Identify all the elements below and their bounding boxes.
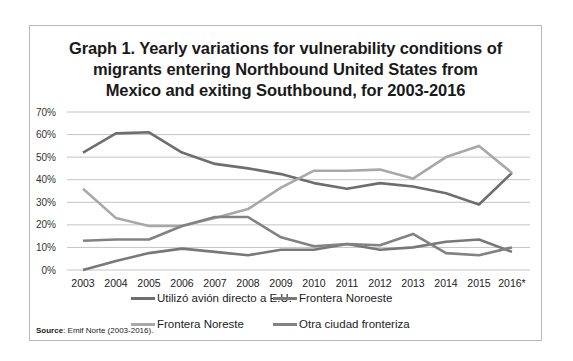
legend-swatch [131, 297, 155, 300]
line-chart: 0%10%20%30%40%50%60%70% 2003200420052006… [0, 0, 573, 361]
y-tick-label: 50% [36, 152, 56, 163]
legend-swatch [273, 297, 297, 300]
x-tick-label: 2015 [467, 277, 491, 289]
x-tick-label: 2008 [236, 277, 260, 289]
y-tick-label: 60% [36, 129, 56, 140]
y-tick-label: 10% [36, 242, 56, 253]
x-tick-label: 2003 [71, 277, 95, 289]
legend-label: Frontera Noroeste [299, 292, 392, 304]
x-tick-label: 2004 [104, 277, 128, 289]
x-tick-label: 2010 [302, 277, 326, 289]
source-note: Source: Emif Norte (2003-2016). [36, 326, 153, 335]
x-tick-label: 2016* [498, 277, 525, 289]
y-tick-label: 0% [42, 265, 57, 276]
x-axis-ticks: 2003200420052006200720082009201020112012… [71, 277, 525, 289]
x-tick-label: 2005 [137, 277, 161, 289]
legend-label: Otra ciudad fronteriza [299, 318, 410, 330]
series-line [83, 146, 512, 226]
series-lines [83, 132, 512, 270]
legend-item-avion: Utilizó avión directo a E.U. [131, 292, 292, 304]
y-tick-label: 20% [36, 219, 56, 230]
series-line [83, 240, 512, 271]
x-tick-label: 2012 [368, 277, 392, 289]
x-tick-label: 2014 [434, 277, 458, 289]
legend-label: Utilizó avión directo a E.U. [157, 292, 292, 304]
x-tick-label: 2007 [203, 277, 227, 289]
legend-item-otra-ciudad: Otra ciudad fronteriza [273, 318, 410, 330]
source-label: Source [36, 326, 63, 335]
y-tick-label: 30% [36, 197, 56, 208]
y-tick-label: 40% [36, 174, 56, 185]
legend-item-noroeste: Frontera Noroeste [273, 292, 392, 304]
source-text: : Emif Norte (2003-2016). [63, 326, 153, 335]
x-tick-label: 2006 [170, 277, 194, 289]
x-tick-label: 2013 [401, 277, 425, 289]
legend-swatch [273, 323, 297, 326]
y-axis-ticks: 0%10%20%30%40%50%60%70% [36, 107, 56, 276]
series-line [83, 132, 512, 204]
legend-label: Frontera Noreste [157, 318, 244, 330]
x-tick-label: 2009 [269, 277, 293, 289]
gridlines [67, 112, 530, 270]
y-tick-label: 70% [36, 107, 56, 118]
x-tick-label: 2011 [336, 277, 359, 289]
